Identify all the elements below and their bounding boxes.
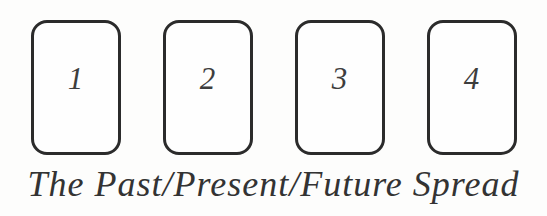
card-4: 4 xyxy=(427,20,517,155)
spread-caption: The Past/Present/Future Spread xyxy=(0,160,547,208)
card-2: 2 xyxy=(163,20,253,155)
card-3-number: 3 xyxy=(332,63,348,94)
card-1: 1 xyxy=(31,20,121,155)
card-4-number: 4 xyxy=(464,63,480,94)
card-3: 3 xyxy=(295,20,385,155)
tarot-spread-figure: 1 2 3 4 The Past/Present/Future Spread xyxy=(0,0,547,216)
cards-row: 1 2 3 4 xyxy=(0,20,547,155)
card-1-number: 1 xyxy=(68,63,84,94)
card-2-number: 2 xyxy=(200,63,216,94)
